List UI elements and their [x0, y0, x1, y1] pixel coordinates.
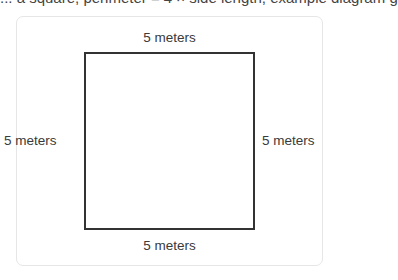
square-shape: [84, 52, 255, 230]
right-side-label: 5 meters: [262, 133, 315, 148]
left-side-label: 5 meters: [4, 133, 57, 148]
top-side-label: 5 meters: [84, 30, 255, 45]
bottom-side-label: 5 meters: [84, 238, 255, 253]
clipped-header-text: ... a square, perimeter = 4 × side lengt…: [0, 0, 334, 6]
